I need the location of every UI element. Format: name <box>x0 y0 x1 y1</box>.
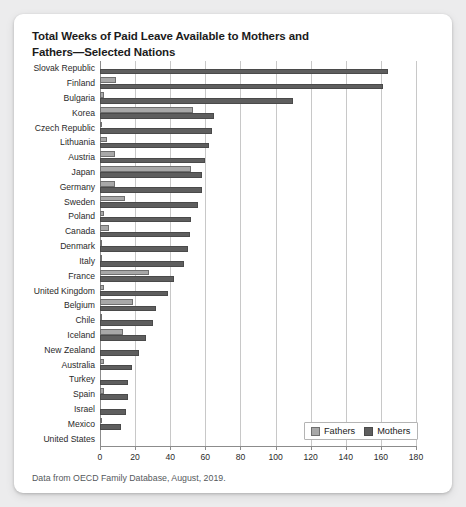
gridline-180 <box>416 61 417 446</box>
bar-row: France <box>100 268 416 283</box>
bar-mothers <box>100 380 128 386</box>
category-label: Korea <box>72 109 95 118</box>
category-label: Czech Republic <box>35 123 95 132</box>
bar-fathers <box>100 270 149 276</box>
x-tick-label: 60 <box>201 452 211 462</box>
bar-row: Poland <box>100 209 416 224</box>
category-label: Israel <box>74 405 95 414</box>
bar-fathers <box>100 181 115 187</box>
bar-fathers <box>100 225 109 231</box>
bar-fathers <box>100 299 133 305</box>
category-label: Japan <box>72 168 95 177</box>
bar-row: United Kingdom <box>100 283 416 298</box>
bar-mothers <box>100 232 190 238</box>
bar-fathers <box>100 107 193 113</box>
bar-fathers <box>100 122 102 128</box>
category-label: United Kingdom <box>34 286 95 295</box>
bar-row: Japan <box>100 165 416 180</box>
bar-mothers <box>100 320 153 326</box>
bar-mothers <box>100 113 214 119</box>
bar-fathers <box>100 314 102 320</box>
x-tick-label: 20 <box>130 452 140 462</box>
bar-row: Denmark <box>100 239 416 254</box>
bar-fathers <box>100 92 104 98</box>
x-tick-label: 100 <box>268 452 282 462</box>
bar-mothers <box>100 335 146 341</box>
bar-row: Israel <box>100 402 416 417</box>
x-tick <box>170 446 171 450</box>
bar-mothers <box>100 84 383 90</box>
bar-mothers <box>100 246 188 252</box>
bar-row: Chile <box>100 313 416 328</box>
x-tick-label: 0 <box>98 452 103 462</box>
bar-row: Belgium <box>100 298 416 313</box>
x-tick <box>135 446 136 450</box>
page-title: Total Weeks of Paid Leave Available to M… <box>32 28 342 61</box>
category-label: Finland <box>67 79 95 88</box>
bar-mothers <box>100 98 293 104</box>
legend-item-mothers: Mothers <box>364 426 410 436</box>
bar-row: Finland <box>100 76 416 91</box>
x-axis-line <box>100 446 417 447</box>
category-label: Germany <box>60 183 95 192</box>
category-label: Austria <box>68 153 95 162</box>
x-tick-label: 160 <box>374 452 388 462</box>
bar-mothers <box>100 306 156 312</box>
bar-mothers <box>100 409 126 415</box>
bar-fathers <box>100 329 123 335</box>
bar-row: Canada <box>100 224 416 239</box>
category-label: Italy <box>79 257 95 266</box>
x-tick <box>381 446 382 450</box>
bar-mothers <box>100 158 205 164</box>
x-tick <box>346 446 347 450</box>
bar-mothers <box>100 394 128 400</box>
category-label: Bulgaria <box>63 94 95 103</box>
bar-row: Austria <box>100 150 416 165</box>
category-label: Poland <box>68 212 95 221</box>
bar-row: Bulgaria <box>100 91 416 106</box>
x-tick <box>205 446 206 450</box>
bar-mothers <box>100 276 174 282</box>
category-label: Mexico <box>68 419 95 428</box>
category-label: Denmark <box>60 242 95 251</box>
x-tick-label: 140 <box>339 452 353 462</box>
category-label: Chile <box>75 316 95 325</box>
bar-mothers <box>100 128 212 134</box>
legend-item-fathers: Fathers <box>311 426 355 436</box>
bar-row: Lithuania <box>100 135 416 150</box>
bar-row: Germany <box>100 179 416 194</box>
x-tick <box>311 446 312 450</box>
category-label: Belgium <box>64 301 95 310</box>
category-label: Slovak Republic <box>33 64 95 73</box>
bar-mothers <box>100 291 168 297</box>
bar-fathers <box>100 359 104 365</box>
bar-row: New Zealand <box>100 342 416 357</box>
category-label: Iceland <box>67 331 95 340</box>
plot-area: Slovak RepublicFinlandBulgariaKoreaCzech… <box>100 61 416 446</box>
category-label: Sweden <box>64 197 95 206</box>
category-label: Canada <box>65 227 95 236</box>
legend-label-fathers: Fathers <box>324 426 355 436</box>
x-tick-label: 180 <box>409 452 423 462</box>
chart-card: Total Weeks of Paid Leave Available to M… <box>14 14 452 493</box>
x-tick-label: 80 <box>236 452 246 462</box>
bar-mothers <box>100 143 209 149</box>
legend-label-mothers: Mothers <box>377 426 410 436</box>
category-label: New Zealand <box>44 345 95 354</box>
bar-fathers <box>100 418 102 424</box>
bar-fathers <box>100 255 102 261</box>
bar-mothers <box>100 187 202 193</box>
bar-fathers <box>100 388 104 394</box>
category-label: Lithuania <box>60 138 95 147</box>
bar-mothers <box>100 217 191 223</box>
bar-row: Spain <box>100 387 416 402</box>
x-tick-label: 40 <box>165 452 175 462</box>
bar-mothers <box>100 172 202 178</box>
bar-fathers <box>100 77 116 83</box>
bar-row: Czech Republic <box>100 120 416 135</box>
bar-rows: Slovak RepublicFinlandBulgariaKoreaCzech… <box>100 61 416 446</box>
bar-mothers <box>100 350 139 356</box>
bar-row: Australia <box>100 357 416 372</box>
category-label: Turkey <box>69 375 95 384</box>
bar-mothers <box>100 69 388 75</box>
